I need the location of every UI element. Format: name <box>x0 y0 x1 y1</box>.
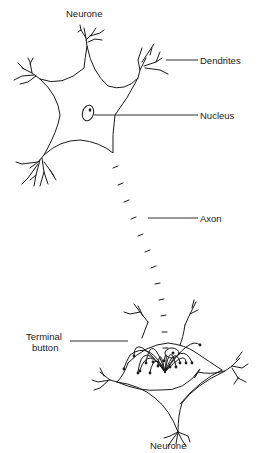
top-nucleus <box>81 104 96 122</box>
diagram-drawing <box>0 0 262 453</box>
top-neurone-cell-body <box>40 46 138 155</box>
terminal-buttons <box>123 343 202 375</box>
label-dendrites: Dendrites <box>200 55 241 66</box>
label-nucleus: Nucleus <box>200 110 234 121</box>
label-top-neurone: Neurone <box>66 8 102 19</box>
label-bottom-neurone: Neurone <box>150 440 186 451</box>
neurone-diagram: Neurone Dendrites Nucleus Axon Terminal … <box>0 0 262 453</box>
axon-drawing <box>113 153 168 372</box>
leader-lines <box>70 60 198 341</box>
bottom-dendrites <box>92 300 248 446</box>
label-terminal-line2: button <box>32 342 58 353</box>
label-axon: Axon <box>200 213 222 224</box>
label-terminal-line1: Terminal <box>26 331 62 342</box>
